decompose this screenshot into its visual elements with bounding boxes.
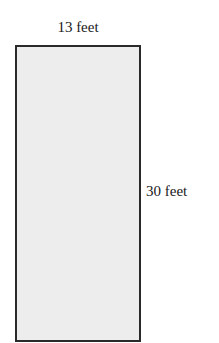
width-label: 13 feet xyxy=(43,19,113,36)
rectangle-shape xyxy=(15,45,141,342)
height-label: 30 feet xyxy=(146,183,187,200)
